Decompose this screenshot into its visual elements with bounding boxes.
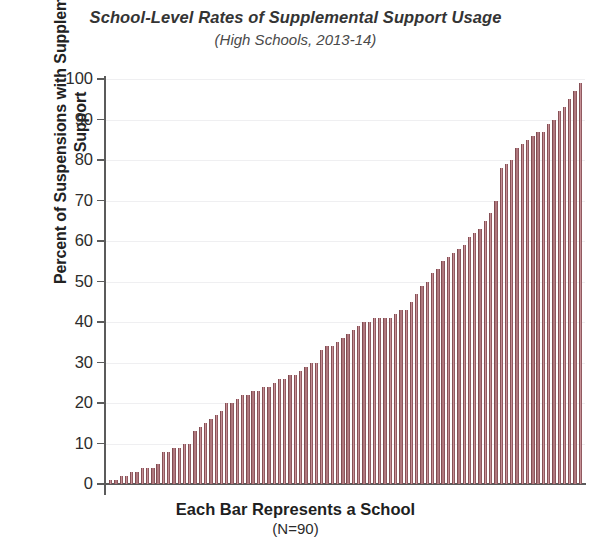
bar [341, 338, 344, 484]
bar [183, 444, 186, 485]
bar [473, 233, 476, 484]
bar [178, 448, 181, 484]
bar [209, 419, 212, 484]
y-axis-tick-label: 30 [33, 354, 93, 370]
y-axis-tick-label: 100 [33, 70, 93, 86]
bar [241, 395, 244, 484]
bar [246, 395, 249, 484]
bar [199, 427, 202, 484]
x-axis-caption: Each Bar Represents a School (N=90) [0, 498, 591, 539]
bar [431, 273, 434, 484]
bar [267, 387, 270, 484]
bar [552, 120, 555, 485]
bar [141, 468, 144, 484]
bar [162, 452, 165, 484]
y-axis-tick-label: 20 [33, 394, 93, 410]
bar [357, 326, 360, 484]
bar [257, 391, 260, 484]
y-axis-tick [97, 78, 105, 80]
bar [420, 286, 423, 484]
bar [500, 168, 503, 484]
y-axis-tick-label: 10 [33, 435, 93, 451]
bar [156, 464, 159, 484]
bar [146, 468, 149, 484]
bar [484, 221, 487, 484]
bar [278, 379, 281, 484]
x-axis-sublabel-text: (N=90) [0, 519, 591, 539]
bar [204, 423, 207, 484]
bar [225, 403, 228, 484]
bar [215, 415, 218, 484]
bar [526, 140, 529, 484]
bar [536, 132, 539, 484]
bar [188, 444, 191, 485]
bar [262, 387, 265, 484]
bar [325, 346, 328, 484]
y-axis-tick [97, 402, 105, 404]
bar-series [105, 79, 586, 484]
bar [172, 448, 175, 484]
bar [515, 148, 518, 484]
chart-figure: School-Level Rates of Supplemental Suppo… [0, 0, 591, 545]
bar [288, 375, 291, 484]
bar [294, 375, 297, 484]
bar [405, 310, 408, 484]
plot-area [105, 79, 586, 484]
bar [410, 302, 413, 484]
bar [251, 391, 254, 484]
bar [573, 91, 576, 484]
y-axis-tick [97, 443, 105, 445]
bar [130, 472, 133, 484]
bar [220, 411, 223, 484]
bar [320, 350, 323, 484]
bar [378, 318, 381, 484]
bar [109, 480, 112, 484]
bar [447, 257, 450, 484]
bar [415, 294, 418, 484]
bar [436, 269, 439, 484]
bar [352, 330, 355, 484]
bar [304, 367, 307, 484]
y-axis-tick [97, 200, 105, 202]
bar [283, 379, 286, 484]
bar [193, 431, 196, 484]
bar [151, 468, 154, 484]
y-axis-tick [97, 362, 105, 364]
y-axis-tick-label: 0 [33, 475, 93, 491]
bar [542, 132, 545, 484]
bar [399, 310, 402, 484]
bar [331, 346, 334, 484]
y-axis-tick-label: 40 [33, 313, 93, 329]
bar [452, 253, 455, 484]
bar [114, 480, 117, 484]
y-axis-tick [97, 159, 105, 161]
bar [478, 229, 481, 484]
bar [558, 111, 561, 484]
bar [510, 160, 513, 484]
y-axis-tick [97, 119, 105, 121]
bar [135, 472, 138, 484]
bar [230, 403, 233, 484]
y-axis-tick [97, 321, 105, 323]
bar [383, 318, 386, 484]
bar [489, 213, 492, 484]
bar [315, 363, 318, 485]
bar [494, 201, 497, 485]
bar [373, 318, 376, 484]
bar [394, 314, 397, 484]
y-axis-tick-label: 90 [33, 111, 93, 127]
y-axis-tick [97, 240, 105, 242]
bar [236, 399, 239, 484]
bar [310, 363, 313, 485]
y-axis-tick [97, 483, 105, 485]
bar [568, 99, 571, 484]
bar [368, 322, 371, 484]
bar [389, 318, 392, 484]
bar [426, 282, 429, 485]
bar [521, 144, 524, 484]
bar [120, 476, 123, 484]
bar [125, 476, 128, 484]
bar [167, 452, 170, 484]
bar [362, 322, 365, 484]
bar [563, 107, 566, 484]
